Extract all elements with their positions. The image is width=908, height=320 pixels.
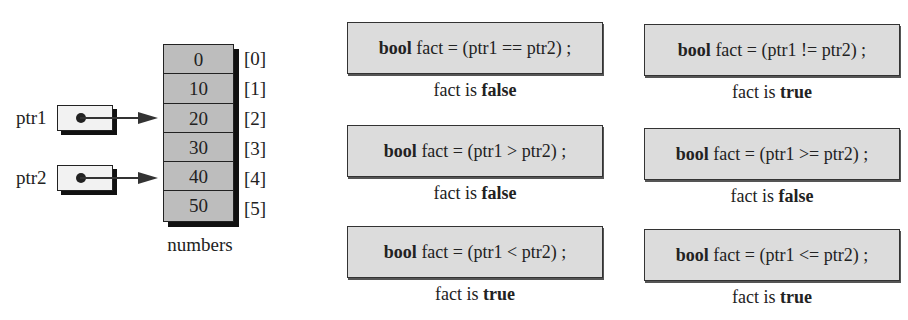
comparison-less: bool fact = (ptr1 < ptr2) ; fact is true xyxy=(347,226,603,305)
bool-keyword: bool xyxy=(678,40,711,60)
comparison-expression: fact = (ptr1 > ptr2) ; xyxy=(417,141,566,161)
bool-keyword: bool xyxy=(379,38,412,58)
comparison-code-box: bool fact = (ptr1 == ptr2) ; xyxy=(347,22,603,74)
comparison-result: fact is false xyxy=(644,186,900,207)
ptr2-arrow-line xyxy=(80,177,142,179)
array-index-5: [5] xyxy=(244,194,266,224)
array-index-4: [4] xyxy=(244,164,266,194)
comparison-less-equal: bool fact = (ptr1 <= ptr2) ; fact is tru… xyxy=(644,229,900,308)
comparison-code-box: bool fact = (ptr1 <= ptr2) ; xyxy=(644,229,900,281)
result-value: false xyxy=(778,186,813,206)
ptr2-label: ptr2 xyxy=(16,165,47,191)
comparison-not-equal: bool fact = (ptr1 != ptr2) ; fact is tru… xyxy=(644,24,900,103)
result-value: false xyxy=(481,80,516,100)
comparison-greater: bool fact = (ptr1 > ptr2) ; fact is fals… xyxy=(347,125,603,204)
ptr2-arrowhead-icon xyxy=(138,172,158,184)
ptr1-arrowhead-icon xyxy=(138,112,158,124)
ptr1-label: ptr1 xyxy=(16,105,47,131)
result-value: true xyxy=(483,284,515,304)
result-value: true xyxy=(780,287,812,307)
comparison-result: fact is true xyxy=(644,82,900,103)
result-prefix: fact is xyxy=(434,80,482,100)
result-prefix: fact is xyxy=(731,186,779,206)
array-cell-5: 50 xyxy=(164,191,233,220)
comparison-greater-equal: bool fact = (ptr1 >= ptr2) ; fact is fal… xyxy=(644,128,900,207)
comparison-expression: fact = (ptr1 <= ptr2) ; xyxy=(709,245,868,265)
array-cell-1: 10 xyxy=(164,74,233,103)
array-index-0: [0] xyxy=(244,44,266,74)
bool-keyword: bool xyxy=(676,245,709,265)
result-prefix: fact is xyxy=(434,183,482,203)
result-value: false xyxy=(481,183,516,203)
array-index-2: [2] xyxy=(244,104,266,134)
comparison-code-box: bool fact = (ptr1 != ptr2) ; xyxy=(644,24,900,76)
comparison-expression: fact = (ptr1 == ptr2) ; xyxy=(412,38,571,58)
array-cell-3: 30 xyxy=(164,133,233,162)
comparison-code-box: bool fact = (ptr1 < ptr2) ; xyxy=(347,226,603,278)
bool-keyword: bool xyxy=(384,242,417,262)
comparison-code-box: bool fact = (ptr1 >= ptr2) ; xyxy=(644,128,900,180)
array-cell-4: 40 xyxy=(164,162,233,191)
comparison-expression: fact = (ptr1 != ptr2) ; xyxy=(711,40,866,60)
comparison-result: fact is true xyxy=(347,284,603,305)
comparison-result: fact is true xyxy=(644,287,900,308)
bool-keyword: bool xyxy=(676,144,709,164)
result-prefix: fact is xyxy=(732,82,780,102)
comparison-expression: fact = (ptr1 < ptr2) ; xyxy=(417,242,566,262)
result-prefix: fact is xyxy=(435,284,483,304)
ptr1-arrow-line xyxy=(80,117,142,119)
result-value: true xyxy=(780,82,812,102)
comparison-code-box: bool fact = (ptr1 > ptr2) ; xyxy=(347,125,603,177)
comparison-equal: bool fact = (ptr1 == ptr2) ; fact is fal… xyxy=(347,22,603,101)
result-prefix: fact is xyxy=(732,287,780,307)
comparison-result: fact is false xyxy=(347,183,603,204)
comparison-result: fact is false xyxy=(347,80,603,101)
array-cell-2: 20 xyxy=(164,104,233,133)
numbers-array: 0 10 20 30 40 50 xyxy=(163,44,234,222)
comparison-expression: fact = (ptr1 >= ptr2) ; xyxy=(709,144,868,164)
bool-keyword: bool xyxy=(384,141,417,161)
array-index-1: [1] xyxy=(244,74,266,104)
array-cell-0: 0 xyxy=(164,45,233,74)
array-index-3: [3] xyxy=(244,134,266,164)
array-name-label: numbers xyxy=(160,234,240,256)
